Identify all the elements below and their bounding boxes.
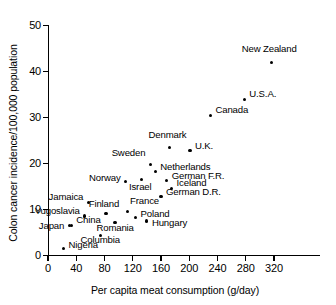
point-label: Nigeria — [69, 240, 98, 250]
data-point — [154, 170, 157, 173]
x-ticklabel-0: 0 — [33, 263, 63, 274]
y-tick-20 — [43, 163, 48, 164]
point-label: Norway — [89, 173, 121, 183]
point-label: Jamaica — [49, 192, 84, 202]
point-label: Israel — [129, 182, 152, 192]
point-label: Romania — [96, 223, 133, 233]
point-label: Canada — [215, 105, 248, 115]
point-label: France — [130, 196, 159, 206]
y-tick-50 — [43, 25, 48, 26]
x-tick-40 — [76, 256, 77, 261]
y-axis-title: Colon cancer incidence/100,000 populatio… — [4, 18, 22, 268]
point-label: Yugoslavia — [35, 206, 80, 216]
point-label: German D.R. — [166, 187, 221, 197]
data-point — [270, 61, 273, 64]
point-label: Sweden — [112, 148, 146, 158]
point-label: Hungary — [152, 218, 187, 228]
x-ticklabel-200: 200 — [174, 263, 204, 274]
y-ticklabel-0: 0 — [17, 250, 41, 261]
x-tick-320 — [273, 256, 274, 261]
x-axis-title: Per capita meat consumption (g/day) — [30, 284, 320, 296]
data-point — [188, 149, 191, 152]
x-ticklabel-120: 120 — [118, 263, 148, 274]
scatter-chart: Colon cancer incidence/100,000 populatio… — [0, 0, 336, 305]
point-label: Denmark — [149, 130, 187, 140]
point-label: Japan — [39, 221, 64, 231]
point-label: China — [76, 215, 100, 225]
data-point — [165, 179, 168, 182]
data-point — [68, 224, 71, 227]
x-ticklabel-80: 80 — [90, 263, 120, 274]
y-ticklabel-20: 20 — [17, 158, 41, 169]
y-tick-40 — [43, 71, 48, 72]
y-ticklabel-40: 40 — [17, 66, 41, 77]
y-ticklabel-50: 50 — [17, 20, 41, 31]
x-ticklabel-160: 160 — [146, 263, 176, 274]
x-tick-160 — [160, 256, 161, 261]
point-label: U.K. — [195, 141, 213, 151]
data-point — [134, 216, 137, 219]
point-label: New Zealand — [242, 44, 297, 54]
data-point — [62, 247, 65, 250]
x-tick-80 — [104, 256, 105, 261]
data-point — [145, 219, 148, 222]
y-tick-30 — [43, 117, 48, 118]
x-axis-line — [48, 255, 320, 256]
x-ticklabel-40: 40 — [61, 263, 91, 274]
data-point — [149, 163, 152, 166]
x-tick-120 — [132, 256, 133, 261]
data-point — [243, 98, 246, 101]
x-tick-200 — [189, 256, 190, 261]
data-point — [104, 212, 107, 215]
data-point — [209, 114, 212, 117]
data-point — [124, 180, 127, 183]
point-label: Finland — [89, 199, 119, 209]
point-label: U.S.A. — [249, 89, 276, 99]
data-point — [159, 195, 162, 198]
x-ticklabel-240: 240 — [203, 263, 233, 274]
x-ticklabel-280: 280 — [231, 263, 261, 274]
x-tick-240 — [217, 256, 218, 261]
x-tick-280 — [245, 256, 246, 261]
data-point — [168, 146, 171, 149]
y-ticklabel-30: 30 — [17, 112, 41, 123]
x-ticklabel-320: 320 — [259, 263, 289, 274]
x-tick-0 — [47, 256, 48, 261]
data-point — [126, 210, 129, 213]
